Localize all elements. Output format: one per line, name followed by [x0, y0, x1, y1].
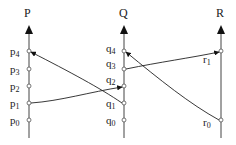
process-r-label: R	[216, 6, 224, 20]
event-p3	[27, 67, 31, 71]
event-label-p1: p1	[10, 97, 20, 111]
q-axis-arrow-icon	[120, 25, 128, 34]
event-p2	[27, 84, 31, 88]
event-label-q4: q4	[106, 42, 116, 56]
process-q: Q q0 q1 q2 q3 q4	[106, 6, 128, 138]
event-label-q3: q3	[106, 57, 116, 71]
event-label-q2: q2	[106, 73, 116, 87]
event-label-p0: p0	[10, 114, 20, 128]
event-label-q1: q1	[106, 97, 116, 111]
event-q0	[122, 118, 126, 122]
process-p-label: P	[24, 6, 31, 20]
event-q4	[122, 49, 126, 53]
process-p: P p0 p1 p2 p3 p4	[10, 6, 33, 138]
event-r1	[219, 49, 223, 53]
event-q2	[122, 84, 126, 88]
space-time-diagram: P p0 p1 p2 p3 p4 Q q0 q1 q2 q3 q4	[0, 0, 236, 145]
process-r: R r0 r1	[203, 6, 225, 138]
event-p4	[27, 49, 31, 53]
r-axis-arrow-icon	[217, 25, 225, 34]
event-label-p4: p4	[10, 45, 20, 59]
p-axis-arrow-icon	[25, 25, 33, 34]
event-r0	[219, 118, 223, 122]
event-label-r0: r0	[203, 116, 211, 130]
process-q-label: Q	[119, 6, 128, 20]
event-label-p3: p3	[10, 63, 20, 77]
event-label-p2: p2	[10, 80, 20, 94]
event-q3	[122, 67, 126, 71]
event-q1	[122, 101, 126, 105]
event-p0	[27, 118, 31, 122]
event-p1	[27, 101, 31, 105]
event-label-q0: q0	[106, 114, 116, 128]
